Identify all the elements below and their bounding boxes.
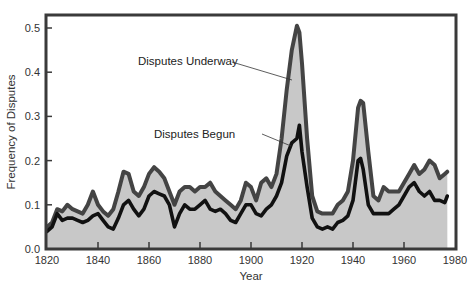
disputes-line-chart: 0.00.10.20.30.40.5 182018401860188019001… [0, 0, 473, 290]
y-axis-ticks: 0.00.10.20.30.40.5 [25, 22, 52, 255]
y-tick-label: 0.3 [25, 110, 40, 122]
x-tick-label: 1880 [188, 254, 212, 266]
x-axis-title: Year [239, 270, 262, 282]
x-tick-label: 1820 [35, 254, 59, 266]
y-tick-label: 0.2 [25, 155, 40, 167]
y-tick-label: 0.1 [25, 199, 40, 211]
annotation-disputes-begun: Disputes Begun [154, 128, 235, 140]
y-tick-label: 0.5 [25, 22, 40, 34]
leader-line-underway [232, 62, 292, 80]
x-tick-label: 1940 [341, 254, 365, 266]
y-axis-title: Frequency of Disputes [5, 74, 17, 189]
y-tick-label: 0.4 [25, 66, 40, 78]
x-tick-label: 1840 [86, 254, 110, 266]
x-tick-label: 1960 [392, 254, 416, 266]
x-tick-label: 1980 [443, 254, 467, 266]
annotation-disputes-underway: Disputes Underway [138, 55, 238, 67]
x-tick-label: 1920 [290, 254, 314, 266]
x-tick-label: 1900 [239, 254, 263, 266]
x-tick-label: 1860 [137, 254, 161, 266]
